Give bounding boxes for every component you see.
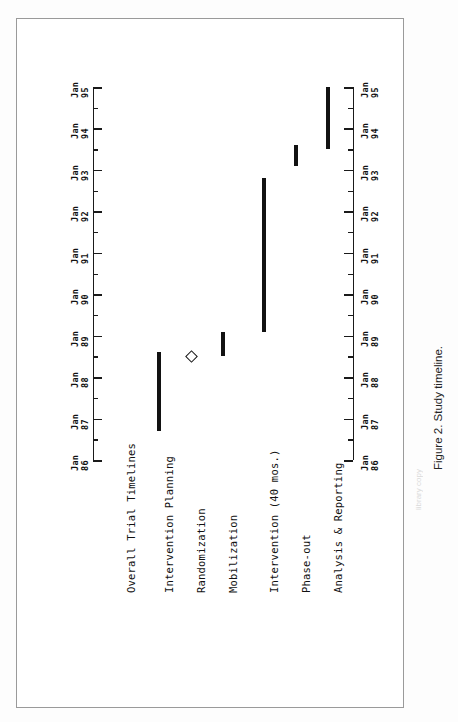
- axis-tick-minor: [93, 398, 98, 399]
- gantt-bar-analysis-reporting: [326, 87, 329, 149]
- axis-tick-major: [93, 294, 102, 295]
- axis-year-label: Jan92: [71, 206, 90, 222]
- axis-tick-major: [344, 336, 353, 337]
- axis-tick-minor: [93, 108, 98, 109]
- axis-tick-major: [344, 419, 353, 420]
- axis-year-label-year: 87: [371, 413, 381, 429]
- figure-caption: Figure 2. Study timeline.: [432, 346, 444, 470]
- gantt-bar-intervention-planning: [157, 352, 160, 431]
- chart-title: Overall Trial Timelines: [125, 443, 137, 593]
- scanned-page: Jan86Jan87Jan88Jan89Jan90Jan91Jan92Jan93…: [0, 0, 458, 722]
- axis-tick-minor: [348, 274, 353, 275]
- axis-tick-minor: [93, 439, 98, 440]
- axis-tick-major: [344, 170, 353, 171]
- axis-year-label: Jan90: [71, 289, 90, 305]
- axis-tick-minor: [93, 356, 98, 357]
- milestone-diamond-randomization: [185, 351, 198, 364]
- axis-year-label: Jan94: [361, 123, 380, 139]
- axis-year-label: Jan89: [71, 330, 90, 346]
- axis-tick-minor: [348, 232, 353, 233]
- axis-year-label: Jan95: [361, 82, 380, 98]
- axis-tick-major: [93, 460, 102, 461]
- axis-year-label: Jan92: [361, 206, 380, 222]
- axis-tick-major: [344, 377, 353, 378]
- axis-year-label-year: 88: [81, 372, 91, 388]
- axis-year-label: Jan88: [71, 372, 90, 388]
- task-label-mobilization: Mobilization: [227, 515, 239, 593]
- task-label-phase-out: Phase-out: [300, 534, 312, 593]
- axis-year-label-year: 88: [371, 372, 381, 388]
- axis-year-label: Jan91: [71, 248, 90, 264]
- axis-year-label: Jan86: [71, 455, 90, 471]
- task-label-intervention-planning: Intervention Planning: [163, 456, 175, 593]
- axis-year-label-year: 89: [371, 330, 381, 346]
- axis-year-label-year: 86: [81, 455, 91, 471]
- axis-tick-minor: [348, 398, 353, 399]
- axis-year-label-year: 92: [371, 206, 381, 222]
- axis-tick-major: [93, 336, 102, 337]
- axis-tick-major: [344, 211, 353, 212]
- axis-year-label-year: 94: [371, 123, 381, 139]
- gantt-bar-mobilization: [221, 332, 224, 357]
- axis-year-label-year: 89: [81, 330, 91, 346]
- axis-tick-major: [344, 128, 353, 129]
- axis-tick-major: [93, 377, 102, 378]
- axis-year-label-year: 90: [81, 289, 91, 305]
- axis-tick-major: [93, 419, 102, 420]
- axis-tick-minor: [348, 191, 353, 192]
- axis-year-label: Jan93: [71, 165, 90, 181]
- axis-year-label-year: 90: [371, 289, 381, 305]
- axis-year-label-year: 87: [81, 413, 91, 429]
- axis-tick-minor: [348, 315, 353, 316]
- axis-tick-major: [344, 87, 353, 88]
- axis-year-label: Jan90: [361, 289, 380, 305]
- axis-year-label: Jan94: [71, 123, 90, 139]
- axis-tick-major: [93, 211, 102, 212]
- axis-tick-minor: [348, 356, 353, 357]
- axis-year-label: Jan87: [71, 413, 90, 429]
- axis-tick-major: [93, 87, 102, 88]
- axis-year-label-year: 95: [81, 82, 91, 98]
- axis-tick-minor: [93, 149, 98, 150]
- axis-year-label: Jan88: [361, 372, 380, 388]
- axis-tick-major: [93, 128, 102, 129]
- axis-year-label-year: 91: [371, 248, 381, 264]
- axis-tick-major: [93, 253, 102, 254]
- axis-year-label-year: 86: [371, 455, 381, 471]
- axis-year-label-year: 92: [81, 206, 91, 222]
- task-label-analysis-reporting: Analysis & Reporting: [332, 463, 344, 593]
- axis-year-label: Jan89: [361, 330, 380, 346]
- axis-spine: [353, 87, 354, 460]
- axis-tick-minor: [348, 149, 353, 150]
- study-timeline-figure: Jan86Jan87Jan88Jan89Jan90Jan91Jan92Jan93…: [16, 18, 404, 708]
- axis-year-label-year: 95: [371, 82, 381, 98]
- axis-tick-minor: [93, 274, 98, 275]
- axis-year-label: Jan93: [361, 165, 380, 181]
- axis-year-label: Jan91: [361, 248, 380, 264]
- axis-tick-major: [93, 170, 102, 171]
- axis-tick-minor: [93, 232, 98, 233]
- axis-tick-major: [344, 460, 353, 461]
- axis-tick-minor: [348, 439, 353, 440]
- axis-year-label: Jan87: [361, 413, 380, 429]
- axis-tick-major: [344, 294, 353, 295]
- gantt-bar-phase-out: [294, 145, 297, 166]
- axis-year-label-year: 93: [371, 165, 381, 181]
- axis-tick-minor: [348, 108, 353, 109]
- axis-year-label-year: 93: [81, 165, 91, 181]
- task-label-randomization: Randomization: [195, 508, 207, 593]
- axis-year-label: Jan86: [361, 455, 380, 471]
- scan-watermark: library copy: [414, 469, 423, 510]
- axis-tick-minor: [93, 315, 98, 316]
- axis-tick-minor: [93, 191, 98, 192]
- gantt-bar-intervention-40-mos: [262, 178, 265, 331]
- task-label-intervention-40-mos: Intervention (40 mos.): [268, 450, 280, 593]
- axis-year-label-year: 91: [81, 248, 91, 264]
- axis-year-label: Jan95: [71, 82, 90, 98]
- axis-tick-major: [344, 253, 353, 254]
- axis-year-label-year: 94: [81, 123, 91, 139]
